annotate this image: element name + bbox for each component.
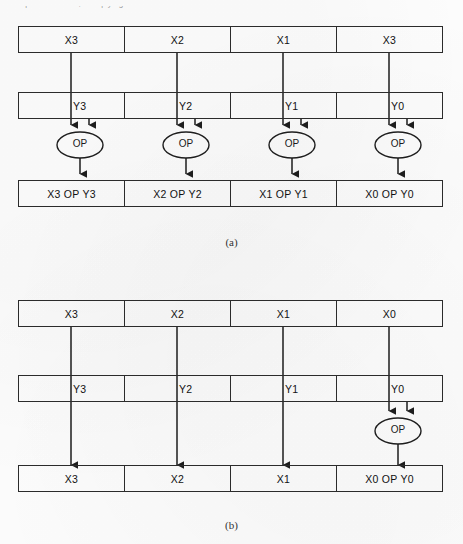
figure-a-result-register: X3 OP Y3 X2 OP Y2 X1 OP Y1 X0 OP Y0 xyxy=(18,180,443,207)
result-cell: X2 OP Y2 xyxy=(125,181,231,206)
op-label: OP xyxy=(375,138,421,149)
y-cell: Y0 xyxy=(337,93,442,118)
x-cell: X0 xyxy=(337,301,442,326)
x-cell: X1 xyxy=(231,301,337,326)
op-label: OP xyxy=(269,138,315,149)
y-cell: Y3 xyxy=(19,93,125,118)
result-cell: X1 OP Y1 xyxy=(231,181,337,206)
x-cell: X2 xyxy=(125,301,231,326)
result-cell: X1 xyxy=(231,466,337,491)
op-label: OP xyxy=(57,138,103,149)
y-cell: Y1 xyxy=(231,376,337,401)
y-cell: Y2 xyxy=(125,376,231,401)
x-cell: X1 xyxy=(231,27,337,52)
op-label: OP xyxy=(375,424,421,435)
y-cell: Y0 xyxy=(337,376,442,401)
figure-a-caption: (a) xyxy=(0,236,463,248)
figure-b-x-register: X3 X2 X1 X0 xyxy=(18,300,443,327)
op-label: OP xyxy=(163,138,209,149)
y-cell: Y1 xyxy=(231,93,337,118)
x-cell: X2 xyxy=(125,27,231,52)
figure-b-result-register: X3 X2 X1 X0 OP Y0 xyxy=(18,465,443,492)
result-cell: X3 OP Y3 xyxy=(19,181,125,206)
figure-b: X3 X2 X1 X0 Y3 Y2 Y1 Y0 OP X3 X2 X1 X0 O… xyxy=(0,272,463,544)
y-cell: Y2 xyxy=(125,93,231,118)
x-cell: X3 xyxy=(19,301,125,326)
figure-a: X3 X2 X1 X3 Y3 Y2 Y1 Y0 OP OP OP OP X3 O… xyxy=(0,0,463,272)
figure-a-y-register: Y3 Y2 Y1 Y0 xyxy=(18,92,443,119)
x-cell: X3 xyxy=(19,27,125,52)
figure-a-x-register: X3 X2 X1 X3 xyxy=(18,26,443,53)
result-cell: X2 xyxy=(125,466,231,491)
y-cell: Y3 xyxy=(19,376,125,401)
result-cell: X3 xyxy=(19,466,125,491)
result-cell: X0 OP Y0 xyxy=(337,466,442,491)
result-cell: X0 OP Y0 xyxy=(337,181,442,206)
x-cell: X3 xyxy=(337,27,442,52)
figure-b-caption: (b) xyxy=(0,519,463,531)
figure-b-y-register: Y3 Y2 Y1 Y0 xyxy=(18,375,443,402)
